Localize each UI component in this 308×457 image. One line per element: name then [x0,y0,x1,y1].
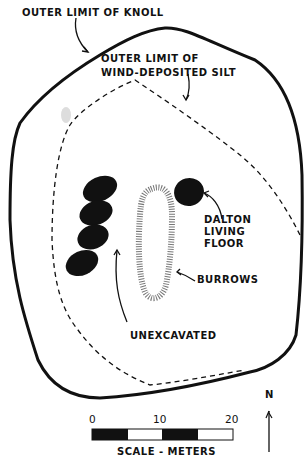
scale-tick-20: 20 [225,413,238,425]
dalton-label-line3: FLOOR [204,238,244,249]
north-label: N [265,389,274,400]
unexcavated-label: UNEXCAVATED [130,330,217,341]
dalton-living-floor [171,175,207,210]
scale-tick-10: 10 [153,413,166,425]
burrows-label: BURROWS [197,274,258,285]
site-map: OUTER LIMIT OF KNOLL OUTER LIMIT OF WIND… [0,0,308,457]
burrows [139,187,172,298]
scale-caption: SCALE - METERS [117,446,216,457]
dalton-label-line2: LIVING [204,226,245,237]
scale-tick-0: 0 [89,413,96,425]
north-arrow-icon [266,411,272,452]
knoll-label: OUTER LIMIT OF KNOLL [22,7,164,18]
silt-label-line2: WIND-DEPOSITED SILT [101,67,236,78]
scale-bar [92,429,233,440]
unexcavated-areas [62,171,122,282]
silt-label-line1: OUTER LIMIT OF [101,53,199,64]
dalton-label-line1: DALTON [204,214,251,225]
knoll-outline [10,28,302,398]
smudge [61,107,71,123]
